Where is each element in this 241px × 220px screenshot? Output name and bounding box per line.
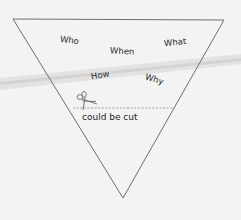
inverted-pyramid-diagram: Who When What How Why could be cut [0, 0, 241, 220]
cut-label: could be cut [82, 113, 138, 122]
word-what: What [164, 37, 187, 48]
word-who: Who [60, 35, 80, 46]
scissors-icon [77, 92, 97, 111]
shadow-band-highlight [0, 58, 241, 85]
word-when: When [110, 46, 135, 56]
diagram-graphics [0, 0, 241, 220]
